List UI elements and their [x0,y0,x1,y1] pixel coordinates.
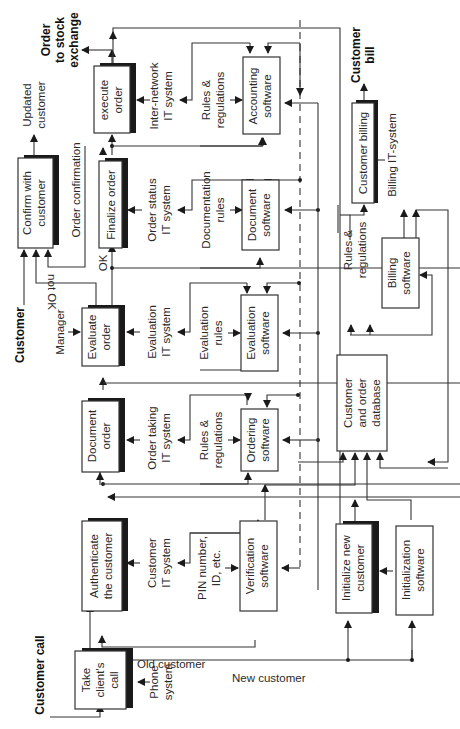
svg-text:Manager: Manager [54,309,66,355]
customer-bill-label: Customer bill [349,27,377,83]
svg-text:Rules &: Rules & [198,420,210,461]
rules-regulations-billing-label: Rules & regulations [342,222,368,279]
customer-it-label: Customer IT system [146,538,172,588]
svg-text:Evaluation: Evaluation [146,305,158,359]
svg-text:Evaluation: Evaluation [198,306,210,360]
svg-text:Accounting: Accounting [247,68,259,125]
customer-order-database: Customer and order database [337,355,387,451]
svg-text:Evaluate: Evaluate [86,315,98,360]
svg-text:Inter-network: Inter-network [148,62,160,129]
svg-text:regulations: regulations [356,222,368,279]
svg-text:rules: rules [214,197,226,222]
svg-text:Order taking: Order taking [146,406,158,469]
customer-call-label: Customer call [33,635,47,714]
svg-text:Billing IT-system: Billing IT-system [386,113,398,197]
inter-network-it-label: Inter-network IT system [148,62,174,129]
svg-text:Verification: Verification [244,538,256,594]
process-execute-order: execute order [94,63,136,133]
svg-text:IT system: IT system [160,307,172,357]
svg-text:Updated: Updated [21,83,33,126]
svg-text:Confirm with: Confirm with [21,171,33,235]
svg-text:Documentation: Documentation [200,171,212,248]
software-accounting: Accounting software [243,57,280,134]
svg-text:the customer: the customer [102,533,114,600]
software-document: Document software [242,180,279,250]
svg-text:Ordering: Ordering [245,418,257,463]
process-finalize-order: Finalize order [99,158,128,248]
svg-text:software: software [260,193,272,236]
customer-label: Customer [13,307,27,363]
pin-label: PIN number, ID, etc. [196,536,222,600]
svg-text:exchange: exchange [67,12,81,68]
svg-text:IT system: IT system [160,185,172,235]
not-ok-label: not OK [46,274,58,310]
external-labels: Customer call Customer Order to stock ex… [13,12,377,715]
new-customer-label: New customer [232,672,306,684]
svg-text:software: software [400,251,412,294]
svg-text:IT system: IT system [160,538,172,588]
svg-text:Phone: Phone [148,665,160,698]
svg-text:software: software [258,544,270,587]
svg-text:order: order [100,422,112,449]
svg-text:Rules &: Rules & [200,80,212,121]
svg-text:OK: OK [97,254,109,271]
svg-text:not OK: not OK [46,274,58,310]
svg-text:Order: Order [39,23,53,56]
svg-text:client's: client's [94,662,106,697]
process-authenticate: Authenticate the customer [82,518,128,611]
svg-text:order: order [112,86,124,113]
ok-label: OK [97,254,109,271]
evaluation-rules-label: Evaluation rules [198,306,224,360]
svg-text:customer: customer [354,544,366,591]
process-initialize-customer: Initialize new customer [336,521,379,613]
svg-text:and order: and order [356,378,368,427]
billing-it-label: Billing IT-system [386,113,398,197]
process-customer-billing: Customer billing [352,100,378,203]
process-document-order: Document order [82,398,125,472]
order-status-it-label: Order status IT system [146,178,172,242]
order-taking-it-label: Order taking IT system [146,406,172,469]
svg-text:customer: customer [35,81,47,128]
svg-text:software: software [259,418,271,461]
software-verification: Verification software [240,521,277,611]
svg-text:Finalize order: Finalize order [105,170,117,240]
svg-text:database: database [370,379,382,426]
svg-text:software: software [414,548,426,591]
software-ordering: Ordering software [241,409,278,471]
svg-text:Customer: Customer [349,27,363,83]
svg-text:regulations: regulations [214,72,226,129]
svg-text:regulations: regulations [212,412,224,469]
svg-text:Initialize new: Initialize new [340,534,352,601]
software-billing: Billing software [382,238,419,308]
order-to-stock-exchange-label: Order to stock exchange [39,12,81,68]
svg-text:customer: customer [35,179,47,226]
svg-text:Rules &: Rules & [342,230,354,271]
order-confirmation-label: Order confirmation [70,142,82,237]
svg-text:software: software [259,311,271,354]
svg-text:ID, etc.: ID, etc. [210,550,222,586]
svg-text:Document: Document [246,188,258,241]
svg-text:software: software [261,74,273,117]
process-confirm-customer: Confirm with customer [18,155,59,248]
process-evaluate-order: Evaluate order [82,305,125,366]
svg-text:Order confirmation: Order confirmation [70,142,82,237]
svg-text:IT system: IT system [160,413,172,463]
svg-text:Order status: Order status [146,178,158,242]
svg-text:IT system: IT system [162,71,174,121]
rules-regulations-accounting-label: Rules & regulations [200,72,226,129]
svg-text:Customer call: Customer call [33,635,47,714]
svg-text:Customer: Customer [146,538,158,588]
svg-text:order: order [100,323,112,350]
take-call-label: Take [80,668,92,692]
process-take-call: Take client's call [75,648,133,709]
svg-text:Customer billing: Customer billing [357,112,369,194]
svg-text:Document: Document [86,409,98,462]
svg-text:to stock: to stock [53,17,67,63]
svg-text:Customer: Customer [13,307,27,363]
svg-text:PIN number,: PIN number, [196,536,208,600]
svg-text:Billing: Billing [386,258,398,289]
process-flow-diagram: Take client's call Authenticate the cust… [0,0,460,729]
svg-text:Authenticate: Authenticate [88,534,100,598]
software-evaluation: Evaluation software [241,295,278,371]
svg-text:Initialization: Initialization [400,540,412,600]
